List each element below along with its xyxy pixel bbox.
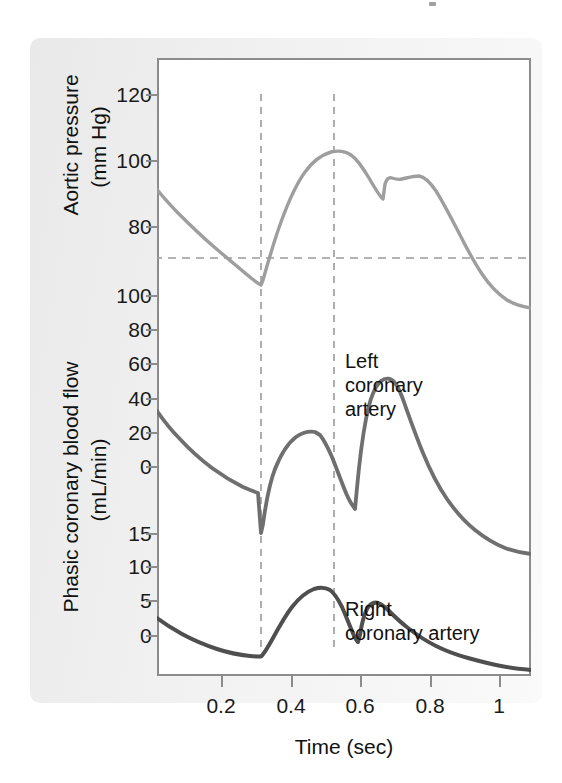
chart-curves — [157, 58, 531, 676]
ytick-mark-lca-60 — [146, 363, 157, 365]
ytick-label-aortic-100: 100 — [96, 150, 152, 171]
annotation-right-coronary-artery: Right coronary artery — [345, 597, 480, 645]
phasic-flow-axis-title: Phasic coronary blood flow — [58, 292, 84, 682]
aortic-pressure-axis-title: Aortic pressure — [58, 50, 84, 240]
phasic-flow-axis-title-line1: Phasic coronary blood flow — [58, 292, 84, 682]
annotation-right-coronary-line1: Right — [345, 597, 480, 621]
ytick-mark-rca-0 — [146, 635, 157, 637]
xtick-mark-0.8 — [430, 676, 432, 687]
ytick-label-rca-15: 15 — [96, 523, 152, 544]
ytick-label-lca-40: 40 — [96, 388, 152, 409]
ytick-label-rca-5: 5 — [96, 590, 152, 611]
plot-area — [157, 58, 531, 676]
xtick-label-0.4: 0.4 — [261, 695, 321, 716]
figure-container: Aortic pressure (mm Hg) Phasic coronary … — [0, 0, 562, 783]
ytick-mark-lca-20 — [146, 432, 157, 434]
ytick-mark-lca-0 — [146, 466, 157, 468]
annotation-left-coronary-line1: Left — [345, 349, 423, 373]
ytick-label-lca-0: 0 — [96, 456, 152, 477]
xtick-mark-0.2 — [221, 676, 223, 687]
xtick-mark-0.6 — [360, 676, 362, 687]
ytick-mark-aortic-120 — [146, 94, 157, 96]
annotation-right-coronary-line2: coronary artery — [345, 621, 480, 645]
xtick-label-0.8: 0.8 — [400, 695, 460, 716]
ytick-label-lca-20: 20 — [96, 422, 152, 443]
ytick-label-lca-100: 100 — [96, 285, 152, 306]
ytick-label-aortic-80: 80 — [96, 216, 152, 237]
ytick-label-rca-0: 0 — [96, 625, 152, 646]
ytick-mark-rca-10 — [146, 566, 157, 568]
ytick-mark-lca-100 — [146, 295, 157, 297]
xtick-label-0.2: 0.2 — [191, 695, 251, 716]
ytick-mark-aortic-80 — [146, 226, 157, 228]
annotation-left-coronary-line2: coronary — [345, 373, 423, 397]
xtick-label-1: 1 — [469, 695, 529, 716]
page-artifact-mark — [429, 2, 436, 6]
ytick-mark-lca-40 — [146, 398, 157, 400]
ytick-label-lca-60: 60 — [96, 353, 152, 374]
x-axis-title: Time (sec) — [157, 735, 531, 759]
ytick-mark-rca-15 — [146, 533, 157, 535]
ytick-label-aortic-120: 120 — [96, 84, 152, 105]
annotation-left-coronary-artery: Left coronary artery — [345, 349, 423, 421]
xtick-mark-1 — [499, 676, 501, 687]
aortic-pressure-axis-title-line1: Aortic pressure — [58, 50, 84, 240]
ytick-mark-aortic-100 — [146, 160, 157, 162]
curve-aortic-pressure — [157, 151, 531, 308]
ytick-label-rca-10: 10 — [96, 556, 152, 577]
curve-left-coronary-artery — [157, 379, 531, 554]
annotation-left-coronary-line3: artery — [345, 397, 423, 421]
ytick-label-lca-80: 80 — [96, 319, 152, 340]
ytick-mark-lca-80 — [146, 329, 157, 331]
xtick-mark-0.4 — [291, 676, 293, 687]
ytick-mark-rca-5 — [146, 600, 157, 602]
xtick-label-0.6: 0.6 — [330, 695, 390, 716]
